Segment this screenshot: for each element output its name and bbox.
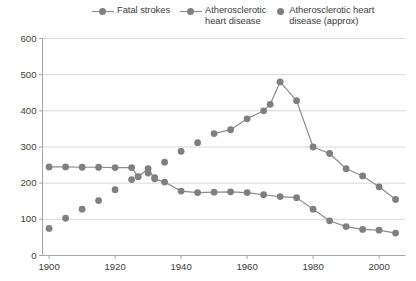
data-point <box>392 230 399 237</box>
data-point <box>79 164 86 171</box>
data-point <box>260 107 267 114</box>
data-point <box>293 194 300 201</box>
data-point <box>79 206 86 213</box>
data-point <box>227 126 234 133</box>
x-axis-tick-label: 1960 <box>227 261 267 272</box>
chart-plot-area <box>0 0 416 281</box>
y-axis-tick-label: 200 <box>11 177 37 188</box>
data-point <box>376 183 383 190</box>
data-point <box>135 173 142 180</box>
data-point <box>178 148 185 155</box>
data-point <box>244 115 251 122</box>
data-point <box>112 164 119 171</box>
data-point <box>95 197 102 204</box>
data-point <box>62 163 69 170</box>
data-point <box>359 226 366 233</box>
data-point <box>326 217 333 224</box>
y-axis-tick-label: 300 <box>11 141 37 152</box>
data-point <box>326 150 333 157</box>
data-point <box>310 206 317 213</box>
series-1 <box>211 79 399 203</box>
data-point <box>277 193 284 200</box>
chart-container: Fatal strokes Atherosclerotic heart dise… <box>0 0 416 281</box>
y-axis-tick-label: 500 <box>11 69 37 80</box>
y-axis-tick-label: 0 <box>11 250 37 261</box>
data-point <box>211 130 218 137</box>
y-axis-tick-label: 400 <box>11 105 37 116</box>
data-point <box>161 179 168 186</box>
data-point <box>194 139 201 146</box>
data-point <box>194 189 201 196</box>
data-point <box>145 170 152 177</box>
data-point <box>392 196 399 203</box>
data-point <box>46 163 53 170</box>
data-point <box>151 174 158 181</box>
data-point <box>128 164 135 171</box>
y-axis-tick-label: 600 <box>11 33 37 44</box>
data-point <box>310 144 317 151</box>
data-point <box>244 189 251 196</box>
x-axis-tick-label: 1900 <box>29 261 69 272</box>
data-point <box>267 101 274 108</box>
x-axis-tick-label: 1920 <box>95 261 135 272</box>
data-point <box>128 176 135 183</box>
data-point <box>376 227 383 234</box>
data-point <box>178 188 185 195</box>
data-point <box>277 79 284 86</box>
data-point <box>62 215 69 222</box>
data-point <box>343 223 350 230</box>
x-axis-tick-label: 2000 <box>359 261 399 272</box>
data-point <box>359 173 366 180</box>
x-axis-tick-label: 1980 <box>293 261 333 272</box>
x-axis-tick-label: 1940 <box>161 261 201 272</box>
series-line <box>214 82 396 200</box>
data-point <box>161 159 168 166</box>
data-point <box>95 164 102 171</box>
data-point <box>293 97 300 104</box>
data-point <box>343 165 350 172</box>
y-axis-tick-label: 100 <box>11 213 37 224</box>
data-point <box>211 189 218 196</box>
data-point <box>112 186 119 193</box>
series-2 <box>46 139 201 232</box>
data-point <box>46 225 53 232</box>
data-point <box>227 188 234 195</box>
data-point <box>260 191 267 198</box>
